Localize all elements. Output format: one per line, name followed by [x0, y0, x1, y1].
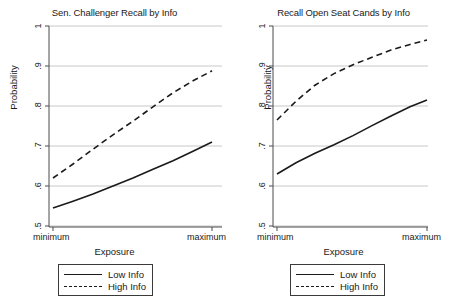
legend-item-high-info: High Info: [296, 280, 378, 292]
series-line-high-info: [53, 71, 212, 178]
legend-label: High Info: [108, 281, 146, 292]
legend-key-solid-line-icon: [296, 269, 334, 279]
legend-item-low-info: Low Info: [64, 268, 146, 280]
series-line-low-info: [53, 142, 212, 208]
legend-label: Low Info: [340, 269, 376, 280]
chart-panel-recall-open-seat-cands: Recall Open Seat Cands by Info Probabili…: [229, 0, 458, 303]
chart-panel-sen-challenger-recall: Sen. Challenger Recall by Info Probabili…: [0, 0, 229, 303]
legend-item-low-info: Low Info: [296, 268, 378, 280]
legend-key-solid-line-icon: [64, 269, 102, 279]
x-tick-label-minimum: minimum: [33, 232, 70, 242]
series-line-high-info: [277, 40, 427, 120]
figure-twin-line-charts: Sen. Challenger Recall by Info Probabili…: [0, 0, 458, 303]
legend: Low Info High Info: [58, 264, 153, 296]
legend-label: Low Info: [108, 269, 144, 280]
plot-area: [0, 0, 229, 303]
legend-label: High Info: [340, 281, 378, 292]
legend-key-dashed-line-icon: [296, 281, 334, 291]
legend-key-dashed-line-icon: [64, 281, 102, 291]
x-axis-label: Exposure: [0, 246, 229, 257]
x-tick-label-maximum: maximum: [402, 232, 441, 242]
x-axis-label: Exposure: [229, 246, 458, 257]
x-tick-label-maximum: maximum: [187, 232, 226, 242]
plot-area: [229, 0, 458, 303]
legend: Low Info High Info: [290, 264, 385, 296]
x-tick-label-minimum: minimum: [257, 232, 294, 242]
series-line-low-info: [277, 100, 427, 174]
legend-item-high-info: High Info: [64, 280, 146, 292]
